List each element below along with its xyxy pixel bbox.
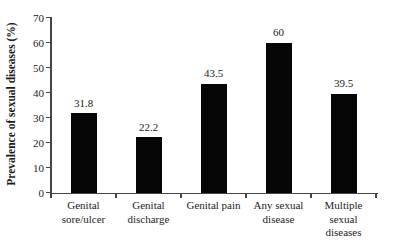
category-label-line: Genital pain	[181, 199, 247, 213]
y-tick-label: 10	[16, 162, 44, 174]
bar	[266, 43, 292, 193]
bar-value-label: 60	[254, 26, 304, 39]
x-tick	[245, 193, 247, 198]
category-label-line: Any sexual	[246, 199, 312, 213]
y-tick-label: 40	[16, 87, 44, 99]
y-tick-label: 70	[16, 12, 44, 24]
y-tick	[46, 142, 51, 144]
x-tick	[50, 193, 52, 198]
category-label: Any sexualdisease	[246, 199, 312, 226]
category-label-line: disease	[246, 213, 312, 227]
bar-value-label: 31.8	[59, 97, 109, 110]
category-label-line: discharge	[116, 213, 182, 227]
category-label-line: Genital	[116, 199, 182, 213]
x-tick	[310, 193, 312, 198]
bar	[136, 137, 162, 193]
prevalence-bar-chart: Prevalence of sexual diseases (%) 010203…	[0, 0, 394, 248]
y-tick	[46, 92, 51, 94]
bar-value-label: 43.5	[189, 67, 239, 80]
bar	[331, 94, 357, 193]
y-tick	[46, 117, 51, 119]
category-label-line: sexual	[311, 213, 377, 227]
category-label-line: diseases	[311, 226, 377, 240]
y-tick-label: 50	[16, 62, 44, 74]
bar-value-label: 39.5	[319, 77, 369, 90]
y-tick	[46, 67, 51, 69]
category-label-line: Genital	[51, 199, 117, 213]
category-label: Genital pain	[181, 199, 247, 213]
category-label: Genitaldischarge	[116, 199, 182, 226]
bar-value-label: 22.2	[124, 121, 174, 134]
y-tick-label: 0	[16, 187, 44, 199]
bar	[71, 113, 97, 193]
y-tick-label: 30	[16, 112, 44, 124]
x-tick	[375, 193, 377, 198]
bar	[201, 84, 227, 193]
category-label-line: sore/ulcer	[51, 213, 117, 227]
category-label: Multiplesexualdiseases	[311, 199, 377, 240]
x-tick	[115, 193, 117, 198]
x-axis-line	[50, 193, 378, 195]
y-tick-label: 60	[16, 37, 44, 49]
x-tick	[180, 193, 182, 198]
category-label-line: Multiple	[311, 199, 377, 213]
y-tick-label: 20	[16, 137, 44, 149]
y-tick	[46, 17, 51, 19]
category-label: Genitalsore/ulcer	[51, 199, 117, 226]
y-tick	[46, 42, 51, 44]
y-tick	[46, 167, 51, 169]
